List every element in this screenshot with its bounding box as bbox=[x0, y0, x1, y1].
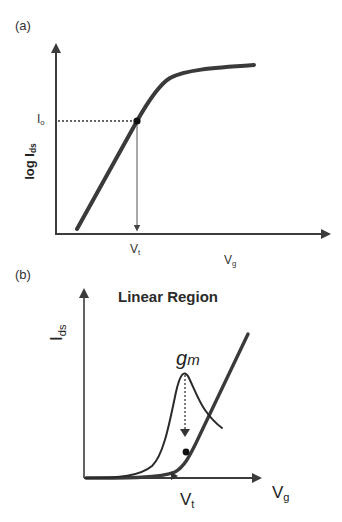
vt-sub: t bbox=[138, 248, 140, 257]
panel-b-gm-peak-arrowhead bbox=[180, 429, 190, 437]
panel-b-gm-curve bbox=[86, 373, 222, 478]
ids-sub: ds bbox=[56, 324, 68, 336]
panel-a-vt-label: Vt bbox=[130, 243, 140, 257]
vg-main: V bbox=[224, 253, 232, 267]
vt-b-main: V bbox=[180, 490, 191, 509]
panel-a-threshold-point bbox=[133, 117, 140, 124]
vg-sub: g bbox=[232, 259, 236, 268]
vg-b-sub: g bbox=[283, 491, 289, 503]
vt-main: V bbox=[130, 242, 138, 256]
gm-main: g bbox=[176, 347, 187, 369]
panel-a-io-label: Io bbox=[37, 113, 45, 127]
panel-a-label: (a) bbox=[15, 19, 31, 32]
diagram-canvas bbox=[0, 0, 342, 522]
panel-b-vt-label: Vt bbox=[180, 491, 194, 510]
panel-b-ids-curve bbox=[86, 334, 248, 478]
panel-a-plot bbox=[55, 48, 326, 234]
panel-b-plot bbox=[84, 293, 257, 480]
vt-b-sub: t bbox=[191, 498, 194, 510]
panel-b-x-axis-label: Vg bbox=[272, 484, 290, 503]
panel-b-y-axis-label: Ids bbox=[48, 313, 67, 353]
io-sub: o bbox=[40, 118, 44, 127]
panel-b-label: (b) bbox=[15, 268, 31, 281]
panel-a-x-axis-label: Vg bbox=[224, 254, 236, 268]
gm-sub: m bbox=[187, 351, 200, 368]
panel-a-curve bbox=[77, 65, 254, 229]
y-label-main: log I bbox=[22, 153, 37, 180]
panel-b-max-gm-point bbox=[183, 449, 190, 456]
y-label-sub: ds bbox=[28, 143, 38, 153]
ids-main: I bbox=[47, 336, 66, 341]
panel-b-gm-label: gm bbox=[176, 348, 200, 368]
figure: (a) Io log Ids Vt Vg (b) Linear Region I… bbox=[0, 0, 342, 522]
panel-b-title: Linear Region bbox=[118, 289, 218, 304]
panel-a-y-axis-label: log Ids bbox=[23, 136, 38, 186]
vg-b-main: V bbox=[272, 483, 283, 502]
